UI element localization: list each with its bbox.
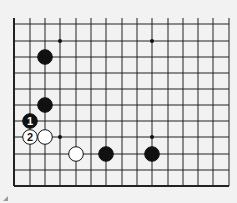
- white-stone[interactable]: [38, 130, 53, 145]
- move-number: 2: [27, 131, 33, 143]
- star-point: [150, 135, 154, 139]
- black-stone[interactable]: [99, 147, 114, 162]
- star-point: [58, 135, 62, 139]
- move-number: 1: [27, 115, 33, 127]
- black-stone[interactable]: [38, 50, 53, 65]
- black-stone[interactable]: [145, 147, 160, 162]
- black-stone[interactable]: 1: [23, 114, 38, 129]
- white-stone[interactable]: 2: [23, 130, 38, 145]
- go-board[interactable]: 12: [0, 0, 237, 203]
- star-point: [150, 39, 154, 43]
- corner-mark-icon: [3, 196, 8, 201]
- white-stone[interactable]: [69, 147, 84, 162]
- star-point: [58, 39, 62, 43]
- black-stone[interactable]: [38, 98, 53, 113]
